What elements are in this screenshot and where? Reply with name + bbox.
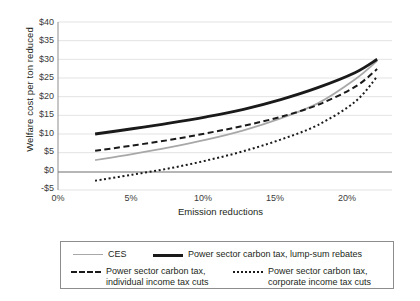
legend-label: Power sector carbon tax, corporate incom… [268,266,371,288]
legend-item-lump-sum-rebates[interactable]: Power sector carbon tax, lump-sum rebate… [153,249,362,261]
legend-swatch-solid-gray-icon [73,249,103,261]
legend-label: Power sector carbon tax, lump-sum rebate… [188,249,362,260]
legend-label: Power sector carbon tax, individual inco… [106,266,209,288]
legend-swatch-solid-black-icon [153,249,183,261]
legend-item-individual-income-tax-cuts[interactable]: Power sector carbon tax, individual inco… [71,266,209,288]
legend-swatch-dashed-icon [71,266,101,278]
legend-label: CES [108,249,127,260]
legend-swatch-dotted-icon [233,266,263,278]
legend-item-ces[interactable]: CES [73,249,127,261]
data-series-layer [95,59,377,180]
chart-legend: CES Power sector carbon tax, lump-sum re… [60,241,394,289]
legend-item-corporate-income-tax-cuts[interactable]: Power sector carbon tax, corporate incom… [233,266,371,288]
gridlines [58,22,392,190]
